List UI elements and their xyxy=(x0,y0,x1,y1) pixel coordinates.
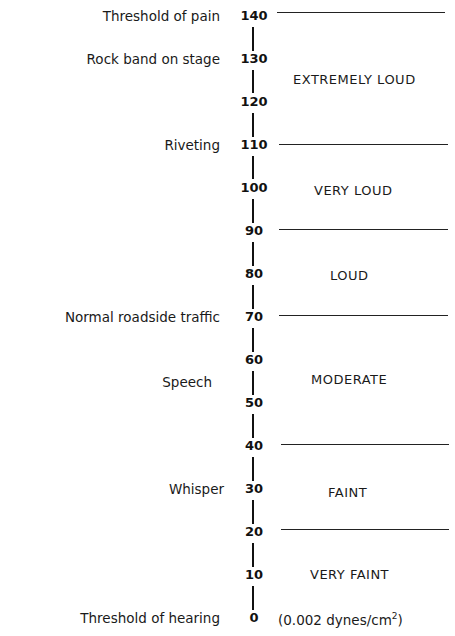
axis-segment xyxy=(252,586,254,610)
separator-110 xyxy=(279,144,448,145)
separator-70 xyxy=(279,315,448,316)
axis-segment xyxy=(252,414,254,438)
axis-segment xyxy=(252,285,254,309)
tick-130: 130 xyxy=(234,52,274,66)
tick-70: 70 xyxy=(234,310,274,324)
tick-40: 40 xyxy=(234,439,274,453)
zone-extremely-loud: EXTREMELY LOUD xyxy=(293,72,416,88)
axis-segment xyxy=(252,242,254,266)
axis-segment xyxy=(252,156,254,179)
axis-segment xyxy=(252,27,254,51)
tick-50: 50 xyxy=(234,396,274,410)
axis-segment xyxy=(252,500,254,524)
separator-140 xyxy=(277,12,445,13)
separator-20 xyxy=(281,529,449,530)
example-rock-band: Rock band on stage xyxy=(87,51,220,67)
tick-60: 60 xyxy=(234,353,274,367)
example-whisper: Whisper xyxy=(169,481,224,497)
tick-110: 110 xyxy=(234,138,274,152)
zone-very-loud: VERY LOUD xyxy=(314,183,392,199)
axis-segment xyxy=(252,457,254,481)
reference-pressure-note: (0.002 dynes/cm2) xyxy=(278,608,403,628)
axis-segment xyxy=(252,199,254,223)
note-prefix: (0.002 dynes/cm xyxy=(278,612,392,628)
example-roadside-traffic: Normal roadside traffic xyxy=(65,309,220,325)
axis-segment xyxy=(252,113,254,137)
axis-segment xyxy=(252,328,254,352)
separator-40 xyxy=(281,444,449,445)
tick-140: 140 xyxy=(234,9,274,23)
tick-120: 120 xyxy=(234,95,274,109)
zone-loud: LOUD xyxy=(330,268,369,284)
tick-20: 20 xyxy=(234,525,274,539)
tick-100: 100 xyxy=(234,181,274,195)
example-threshold-of-pain: Threshold of pain xyxy=(103,8,220,24)
axis-segment xyxy=(252,70,254,93)
axis-segment xyxy=(252,543,254,567)
note-suffix: ) xyxy=(398,612,403,628)
example-riveting: Riveting xyxy=(164,137,220,153)
zone-very-faint: VERY FAINT xyxy=(310,567,389,583)
axis-segment xyxy=(252,371,254,395)
tick-30: 30 xyxy=(234,482,274,496)
zone-faint: FAINT xyxy=(328,485,367,501)
example-threshold-of-hearing: Threshold of hearing xyxy=(80,610,220,626)
tick-10: 10 xyxy=(234,568,274,582)
tick-90: 90 xyxy=(234,224,274,238)
tick-0: 0 xyxy=(234,611,274,625)
separator-90 xyxy=(279,229,448,230)
zone-moderate: MODERATE xyxy=(311,372,387,388)
tick-80: 80 xyxy=(234,267,274,281)
example-speech: Speech xyxy=(162,374,212,390)
